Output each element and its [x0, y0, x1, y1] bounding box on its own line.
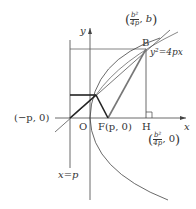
origin-label: O [79, 122, 87, 132]
right-angle-mark [146, 112, 152, 118]
segment-p-to-f [96, 95, 108, 118]
b-coord-denominator: 4p [130, 20, 139, 27]
segment-fb [108, 49, 146, 118]
h-coord-denominator: 4p [153, 140, 162, 147]
directrix-label: x=p [58, 170, 78, 180]
neg-p-label: (−p, 0) [14, 113, 49, 123]
b-label: B [142, 38, 149, 48]
x-axis-label: x [184, 122, 190, 132]
y-axis-label: y [80, 26, 86, 36]
h-label: H [142, 122, 151, 132]
h-coordinate: (b²4p, 0) [148, 132, 180, 147]
y-axis-arrow [88, 28, 92, 34]
x-axis-arrow [180, 116, 186, 120]
parabola-curve [90, 38, 168, 200]
curve-label: y²=4px [150, 48, 183, 57]
diagram-canvas [0, 0, 196, 209]
secant-curve [96, 32, 178, 95]
segment-neg-p-to-p [70, 95, 96, 118]
b-coordinate: (b²4p, b) [125, 12, 157, 27]
focus-label: F(p, 0) [98, 122, 132, 132]
